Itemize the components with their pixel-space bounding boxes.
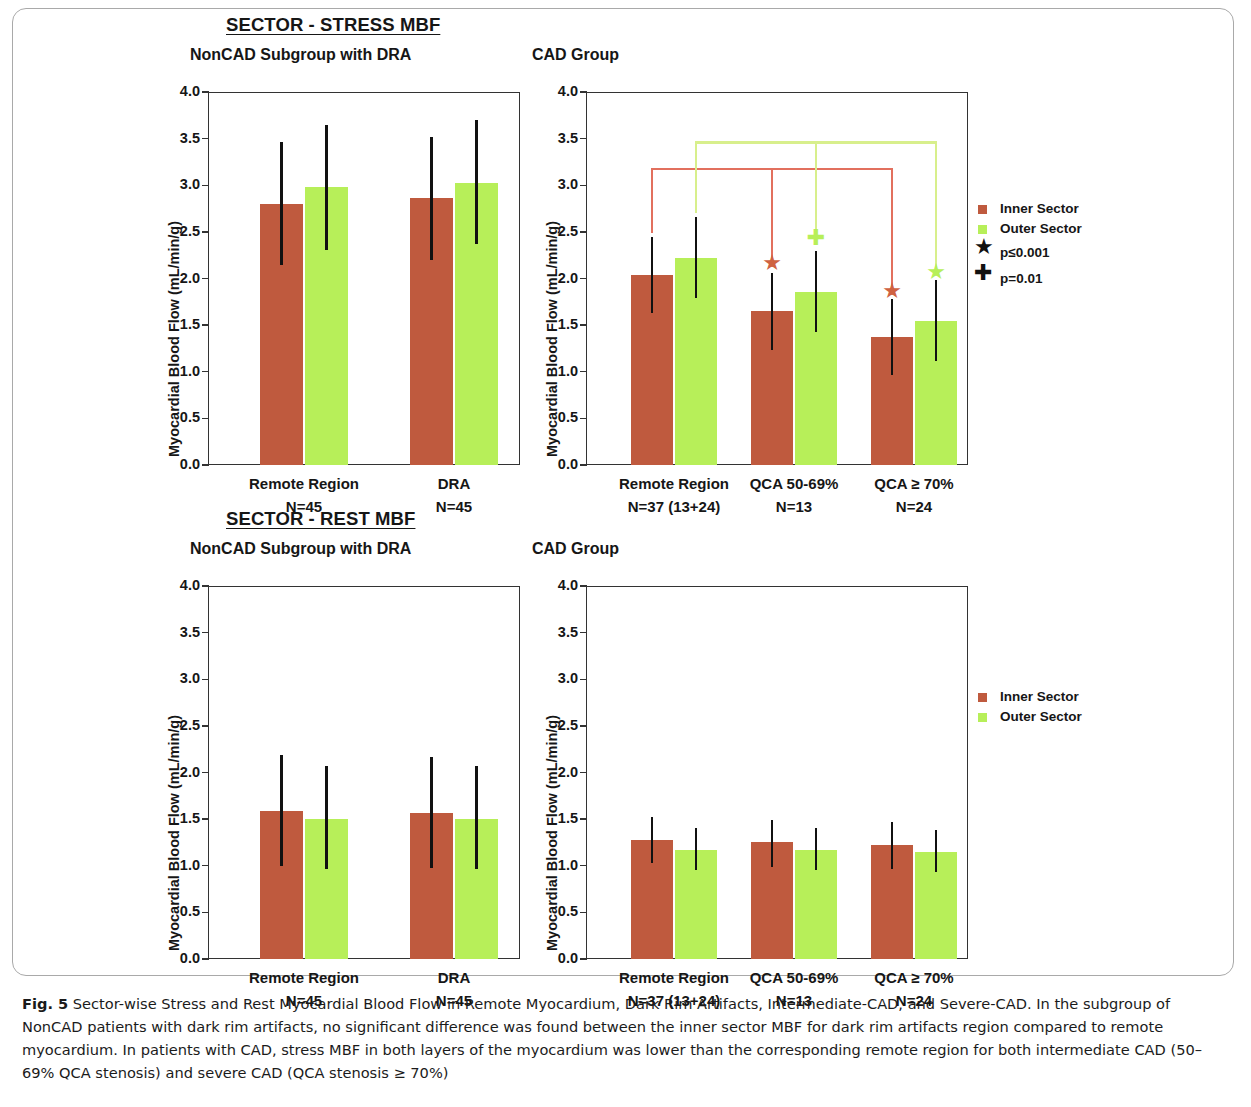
y-tick-mark xyxy=(202,371,209,372)
error-bar-inner-0 xyxy=(280,755,282,866)
y-tick-mark xyxy=(202,725,209,726)
error-bar-inner-2 xyxy=(891,299,893,375)
y-tick-label: 4.0 xyxy=(538,577,578,593)
error-bar-outer-0 xyxy=(695,217,697,298)
y-tick-mark xyxy=(202,324,209,325)
inner-sector-swatch-icon xyxy=(978,693,987,702)
error-bar-inner-0 xyxy=(651,237,653,313)
y-tick-label: 3.0 xyxy=(538,176,578,192)
legend-label-cross: p=0.01 xyxy=(1000,271,1042,286)
significance-bracket-leg xyxy=(935,141,937,276)
y-tick-mark xyxy=(202,185,209,186)
y-tick-label: 3.5 xyxy=(538,624,578,640)
section-title-stress: SECTOR - STRESS MBF xyxy=(226,14,440,36)
y-tick-label: 0.0 xyxy=(160,456,200,472)
y-tick-label: 4.0 xyxy=(160,83,200,99)
y-tick-mark xyxy=(202,418,209,419)
x-category-name: QCA 50-69% xyxy=(750,969,839,986)
y-tick-label: 1.5 xyxy=(160,316,200,332)
star-icon: ★ xyxy=(974,236,994,258)
significance-bracket-leg xyxy=(891,168,893,295)
y-tick-mark xyxy=(580,958,587,959)
x-category-name: QCA ≥ 70% xyxy=(874,969,953,986)
caption-label: Fig. 5 xyxy=(22,995,68,1012)
error-bar-outer-0 xyxy=(695,828,697,870)
y-tick-mark xyxy=(202,772,209,773)
y-tick-label: 3.0 xyxy=(160,670,200,686)
error-bar-outer-1 xyxy=(815,828,817,871)
panel-title-rest-noncad: NonCAD Subgroup with DRA xyxy=(190,540,411,558)
y-tick-label: 1.0 xyxy=(538,857,578,873)
significance-bracket-leg xyxy=(695,141,697,213)
legend-label-outer: Outer Sector xyxy=(1000,221,1082,236)
error-bar-inner-1 xyxy=(771,820,773,867)
y-tick-mark xyxy=(580,679,587,680)
y-tick-label: 0.5 xyxy=(538,903,578,919)
x-category-count: N=37 (13+24) xyxy=(614,498,734,515)
y-tick-mark xyxy=(580,231,587,232)
x-category-count: N=45 xyxy=(379,498,529,515)
x-category-count: N=13 xyxy=(734,498,854,515)
y-tick-label: 3.5 xyxy=(538,130,578,146)
y-tick-mark xyxy=(580,818,587,819)
y-tick-label: 3.0 xyxy=(160,176,200,192)
error-bar-inner-1 xyxy=(430,757,432,868)
y-tick-mark xyxy=(580,185,587,186)
y-tick-mark xyxy=(202,138,209,139)
chart-stress-cad: Myocardial Blood Flow (mL/min/g)0.00.51.… xyxy=(528,70,978,495)
y-tick-label: 0.5 xyxy=(160,409,200,425)
x-category-name: Remote Region xyxy=(619,969,729,986)
y-tick-mark xyxy=(202,818,209,819)
error-bar-outer-0 xyxy=(325,766,327,870)
x-category-name: DRA xyxy=(438,969,471,986)
x-category-count: N=45 xyxy=(229,498,379,515)
chart-stress-noncad: Myocardial Blood Flow (mL/min/g)0.00.51.… xyxy=(150,70,530,495)
x-axis-category-0: Remote RegionN=37 (13+24) xyxy=(614,475,734,515)
outer-sector-swatch-icon xyxy=(978,225,987,234)
error-bar-outer-2 xyxy=(935,280,937,361)
y-tick-mark xyxy=(580,371,587,372)
y-tick-mark xyxy=(202,91,209,92)
significance-star-icon: ★ xyxy=(881,280,903,302)
y-tick-mark xyxy=(202,632,209,633)
caption-text: Sector-wise Stress and Rest Myocardial B… xyxy=(22,995,1202,1081)
y-tick-label: 0.0 xyxy=(538,456,578,472)
y-tick-label: 1.5 xyxy=(160,810,200,826)
significance-cross-icon: ✚ xyxy=(805,227,827,249)
x-axis-category-2: QCA ≥ 70%N=24 xyxy=(854,475,974,515)
y-tick-label: 3.5 xyxy=(160,130,200,146)
y-tick-mark xyxy=(580,585,587,586)
y-tick-mark xyxy=(580,725,587,726)
cross-icon: ✚ xyxy=(974,262,992,284)
y-tick-label: 3.0 xyxy=(538,670,578,686)
y-tick-mark xyxy=(202,679,209,680)
error-bar-outer-1 xyxy=(815,251,817,331)
y-tick-mark xyxy=(580,278,587,279)
y-tick-label: 0.5 xyxy=(160,903,200,919)
y-tick-label: 1.5 xyxy=(538,316,578,332)
y-tick-mark xyxy=(580,138,587,139)
error-bar-outer-0 xyxy=(325,125,327,250)
chart-rest-cad: Myocardial Blood Flow (mL/min/g)0.00.51.… xyxy=(528,564,978,989)
y-tick-label: 2.0 xyxy=(160,270,200,286)
error-bar-outer-1 xyxy=(475,120,477,244)
y-tick-mark xyxy=(580,632,587,633)
y-tick-label: 2.0 xyxy=(538,270,578,286)
y-tick-label: 0.0 xyxy=(538,950,578,966)
y-tick-label: 2.0 xyxy=(160,764,200,780)
y-tick-mark xyxy=(202,865,209,866)
y-tick-label: 2.5 xyxy=(160,223,200,239)
error-bar-outer-1 xyxy=(475,766,477,870)
error-bar-inner-2 xyxy=(891,822,893,869)
y-tick-label: 2.0 xyxy=(538,764,578,780)
inner-sector-swatch-icon xyxy=(978,205,987,214)
y-tick-mark xyxy=(580,464,587,465)
legend-label-inner: Inner Sector xyxy=(1000,689,1079,704)
y-tick-label: 2.5 xyxy=(538,717,578,733)
y-tick-label: 4.0 xyxy=(538,83,578,99)
legend-label-outer: Outer Sector xyxy=(1000,709,1082,724)
x-category-name: DRA xyxy=(438,475,471,492)
x-category-count: N=24 xyxy=(854,498,974,515)
y-tick-mark xyxy=(202,464,209,465)
error-bar-inner-0 xyxy=(651,817,653,863)
